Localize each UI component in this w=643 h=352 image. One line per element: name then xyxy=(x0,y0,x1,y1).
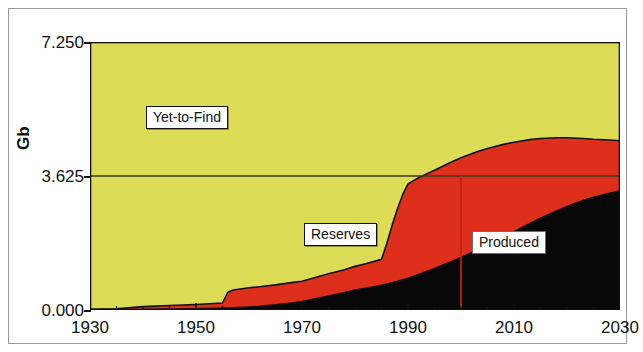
plot-area: Yet-to-Find Reserves Produced xyxy=(90,42,620,310)
y-tick-label: 7.250 xyxy=(41,33,84,53)
stacked-area-chart xyxy=(90,42,620,310)
label-produced: Produced xyxy=(472,231,546,254)
label-reserves: Reserves xyxy=(304,223,377,246)
x-tick-label: 2010 xyxy=(479,318,549,338)
x-tick-label: 1930 xyxy=(55,318,125,338)
y-tick-label: 3.625 xyxy=(41,167,84,187)
label-yet-to-find: Yet-to-Find xyxy=(146,106,228,129)
x-tick-label: 1970 xyxy=(267,318,337,338)
y-tickmark xyxy=(84,310,91,312)
y-axis-label: Gb xyxy=(14,126,34,150)
x-tick-label: 1990 xyxy=(373,318,443,338)
x-tick-label: 1950 xyxy=(161,318,231,338)
x-tick-label: 2030 xyxy=(585,318,643,338)
